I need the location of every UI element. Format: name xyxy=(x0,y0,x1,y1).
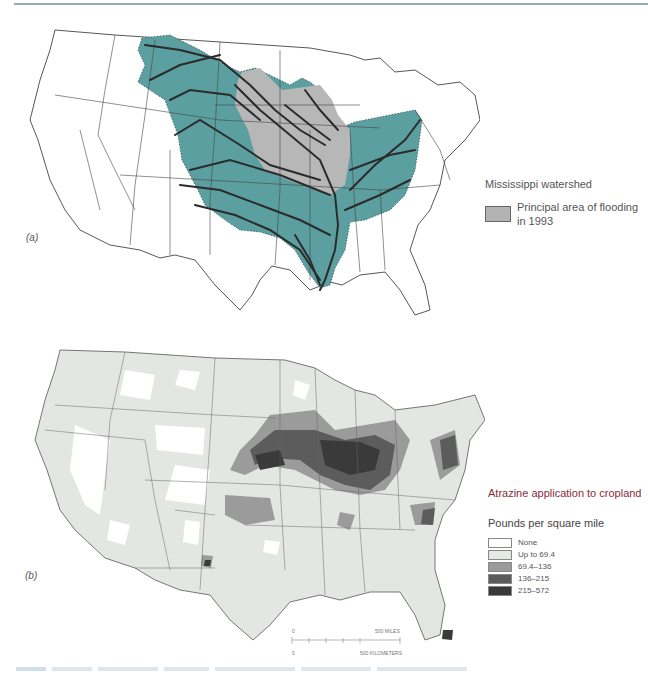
flood-swatch xyxy=(485,206,511,222)
legend-item-215-572: 215–572 xyxy=(488,585,648,596)
panel-b-legend: Atrazine application to cropland Pounds … xyxy=(488,487,648,597)
scale-km-start: 0 xyxy=(292,650,295,656)
swatch-up-to-69 xyxy=(488,550,512,560)
legend-item-136-215: 136–215 xyxy=(488,573,648,584)
swatch-none xyxy=(488,538,512,548)
legend-item-none: None xyxy=(488,537,648,548)
scale-ruler xyxy=(290,635,410,647)
panel-b-map xyxy=(15,330,485,650)
panel-a-label: (a) xyxy=(26,232,38,243)
legend-item-up-to-69: Up to 69.4 xyxy=(488,549,648,560)
scale-km-end: 500 KILOMETERS xyxy=(360,650,402,656)
legend-label: Principal area of flooding in 1993 xyxy=(517,200,645,228)
panel-b-label: (b) xyxy=(25,570,37,581)
panel-a-legend: Mississippi watershed Principal area of … xyxy=(485,178,645,228)
mississippi-watershed-map xyxy=(20,10,480,320)
atrazine-map xyxy=(15,330,485,650)
scale-miles-end: 500 MILES xyxy=(375,628,400,634)
legend-label: 215–572 xyxy=(518,586,549,595)
legend-label: Up to 69.4 xyxy=(518,550,555,559)
swatch-136-215 xyxy=(488,574,512,584)
legend-title: Atrazine application to cropland xyxy=(488,487,648,499)
legend-label: 136–215 xyxy=(518,574,549,583)
legend-item-flood: Principal area of flooding in 1993 xyxy=(485,200,645,228)
scale-bar: 0 500 MILES 0 500 KILOMETERS xyxy=(290,628,410,658)
legend-subtitle: Pounds per square mile xyxy=(488,517,648,529)
swatch-69-136 xyxy=(488,562,512,572)
legend-item-69-136: 69.4–136 xyxy=(488,561,648,572)
panel-a-map xyxy=(20,10,480,320)
top-rule xyxy=(14,3,648,5)
swatch-215-572 xyxy=(488,586,512,596)
legend-label: None xyxy=(518,538,537,547)
legend-title: Mississippi watershed xyxy=(485,178,645,190)
figure-caption-cropped xyxy=(16,667,636,673)
legend-label: 69.4–136 xyxy=(518,562,551,571)
scale-miles-start: 0 xyxy=(292,628,295,634)
